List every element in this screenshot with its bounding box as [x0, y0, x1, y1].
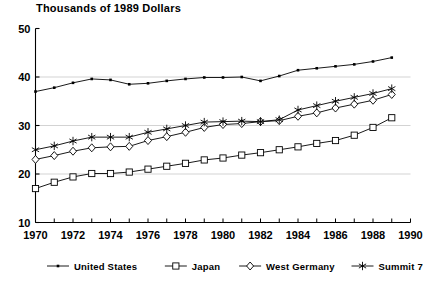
chart-plot-area: 1020304050 19701972197419761978198019821… — [0, 0, 436, 284]
data-point-marker-dot — [165, 80, 168, 83]
data-point-marker-square — [89, 170, 95, 176]
x-axis-tick-label: 1982 — [248, 229, 272, 241]
data-point-marker-dot — [34, 90, 37, 93]
data-point-marker-asterisk — [163, 125, 170, 133]
data-point-marker-diamond — [88, 144, 95, 152]
data-point-marker-dot — [53, 86, 56, 89]
data-point-marker-dot — [128, 83, 131, 86]
data-point-marker-asterisk — [313, 101, 320, 109]
data-point-marker-square — [70, 174, 76, 180]
legend-label: Japan — [192, 261, 220, 272]
data-point-marker-square — [107, 170, 113, 176]
series-line — [36, 58, 392, 92]
data-point-marker-dot — [372, 60, 375, 63]
x-axis-tick-label: 1980 — [211, 229, 235, 241]
data-point-marker-square — [389, 115, 395, 121]
data-point-marker-dot — [278, 75, 281, 78]
data-point-marker-asterisk — [294, 106, 301, 114]
data-point-marker-diamond — [163, 133, 170, 141]
data-point-marker-square — [126, 169, 132, 175]
data-point-marker-dot — [147, 82, 150, 85]
data-point-marker-dot — [240, 76, 243, 79]
x-axis-tick-label: 1984 — [286, 229, 311, 241]
data-point-marker-diamond — [51, 152, 58, 160]
data-point-marker-dot — [259, 80, 262, 83]
data-point-marker-dot — [334, 65, 337, 68]
y-axis-tick-label: 20 — [18, 168, 30, 180]
legend-item-japan[interactable]: Japan — [165, 261, 220, 272]
legend-label: Summit 7 — [379, 261, 423, 272]
data-point-marker-dot — [184, 78, 187, 81]
data-point-marker-square — [145, 166, 151, 172]
data-point-marker-asterisk — [388, 84, 395, 92]
data-point-marker-diamond — [126, 142, 133, 150]
data-point-marker-square — [182, 160, 188, 166]
y-axis-ticks-group — [36, 29, 40, 223]
data-point-marker-asterisk — [51, 142, 58, 150]
data-point-marker-dot — [297, 69, 300, 72]
legend-label: West Germany — [266, 261, 335, 272]
data-point-marker-asterisk — [144, 128, 151, 136]
x-axis-tick-label: 1970 — [23, 229, 47, 241]
data-point-marker-square — [51, 179, 57, 185]
x-axis-tick-label: 1990 — [398, 229, 422, 241]
data-point-marker-dot — [353, 63, 356, 66]
x-axis-tick-label: 1974 — [98, 229, 123, 241]
data-point-marker-dot — [90, 78, 93, 81]
data-point-marker-square — [201, 157, 207, 163]
legend-label: United States — [74, 261, 137, 272]
data-point-marker-dot — [222, 76, 225, 79]
data-point-marker-square — [332, 137, 338, 143]
legend-item-west-germany[interactable]: West Germany — [239, 261, 335, 272]
data-point-marker-asterisk — [32, 146, 39, 154]
data-point-marker-square — [239, 152, 245, 158]
y-axis-tick-label: 40 — [18, 71, 30, 83]
x-axis-tick-label: 1988 — [361, 229, 385, 241]
data-point-marker-diamond — [107, 143, 114, 151]
chart-legend: United StatesJapanWest GermanySummit 7 — [47, 261, 423, 272]
data-point-marker-asterisk — [351, 93, 358, 101]
chart-container: Thousands of 1989 Dollars 1020304050 197… — [0, 0, 436, 284]
y-axis-labels-group: 1020304050 — [18, 23, 30, 229]
data-point-marker-asterisk — [332, 97, 339, 105]
data-point-marker-square — [276, 147, 282, 153]
x-axis-labels-group: 1970197219741976197819801982198419861988… — [23, 229, 422, 241]
data-point-marker-diamond — [145, 137, 152, 145]
data-point-marker-square — [257, 150, 263, 156]
data-point-marker-diamond — [70, 147, 77, 155]
data-point-marker-square — [351, 132, 357, 138]
data-point-marker-dot — [72, 82, 75, 85]
series-united-states — [34, 56, 393, 93]
data-point-marker-square — [220, 155, 226, 161]
data-point-marker-square — [173, 263, 179, 269]
data-point-marker-dot — [390, 56, 393, 59]
y-axis-tick-label: 50 — [18, 23, 30, 35]
data-point-marker-diamond — [32, 155, 39, 163]
series-line — [36, 118, 392, 189]
data-point-marker-dot — [57, 265, 60, 268]
y-axis-tick-label: 30 — [18, 120, 30, 132]
data-point-marker-square — [32, 185, 38, 191]
data-point-marker-square — [295, 144, 301, 150]
x-axis-tick-label: 1978 — [173, 229, 197, 241]
data-point-marker-dot — [203, 76, 206, 79]
series-summit-7 — [32, 84, 396, 154]
y-axis-tick-label: 10 — [18, 217, 30, 229]
series-line — [36, 94, 392, 159]
data-point-marker-square — [370, 124, 376, 130]
data-point-marker-diamond — [313, 109, 320, 117]
x-axis-tick-label: 1986 — [323, 229, 347, 241]
data-point-marker-dot — [315, 67, 318, 70]
data-point-marker-dot — [109, 79, 112, 82]
series-west-germany — [32, 90, 395, 163]
x-axis-ticks-group — [36, 219, 411, 223]
data-point-marker-square — [164, 163, 170, 169]
legend-item-united-states[interactable]: United States — [47, 261, 137, 272]
data-point-marker-square — [314, 140, 320, 146]
data-point-marker-asterisk — [369, 89, 376, 97]
x-axis-tick-label: 1972 — [61, 229, 85, 241]
data-point-marker-diamond — [247, 262, 254, 270]
data-point-marker-asterisk — [69, 137, 76, 145]
x-axis-tick-label: 1976 — [136, 229, 160, 241]
legend-item-summit-7[interactable]: Summit 7 — [352, 261, 423, 272]
